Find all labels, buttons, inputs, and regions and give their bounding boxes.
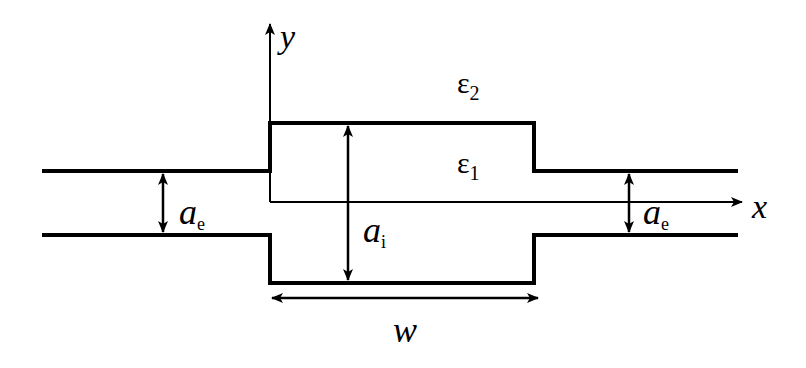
axes	[270, 24, 742, 202]
cavity-length-label: w	[393, 310, 417, 350]
waveguide-diagram: y x ε2 ε1 ae ai ae w	[0, 0, 806, 368]
y-axis-label: y	[277, 18, 296, 55]
upper-wall	[42, 123, 738, 171]
x-axis-label: x	[751, 188, 767, 225]
left-width-label: ae	[179, 192, 205, 234]
right-width-label: ae	[643, 192, 669, 234]
outer-medium-label: ε2	[457, 66, 480, 104]
lower-wall	[42, 235, 738, 283]
dimension-arrows	[163, 126, 629, 298]
inner-height-label: ai	[363, 210, 386, 252]
inner-medium-label: ε1	[457, 146, 480, 184]
